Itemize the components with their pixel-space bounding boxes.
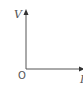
x-axis-arrow-icon	[79, 67, 83, 72]
y-axis-label: V	[14, 9, 22, 20]
y-axis-arrow-icon	[24, 9, 29, 15]
axes-graphic	[0, 0, 83, 85]
x-axis-label: I	[80, 74, 83, 85]
origin-label: O	[18, 70, 26, 81]
